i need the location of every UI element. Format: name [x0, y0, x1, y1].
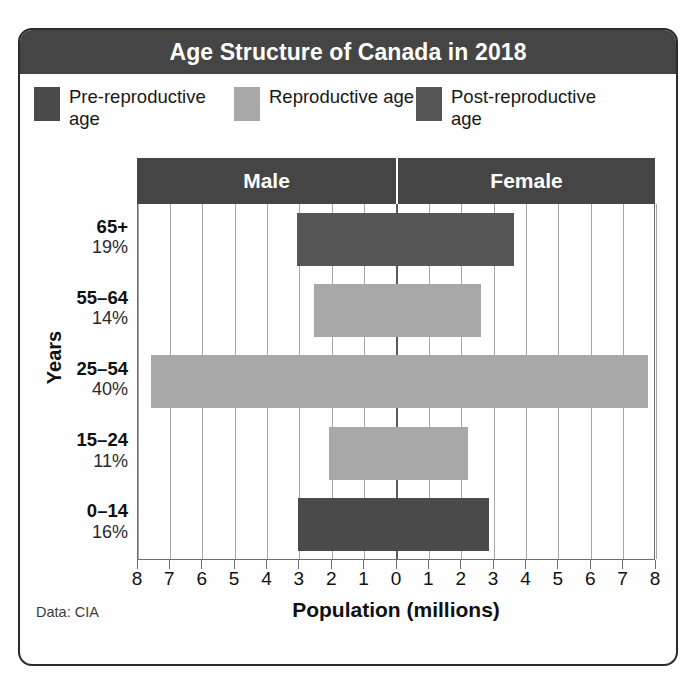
- x-tick-label: 1: [417, 568, 439, 590]
- title-bar: Age Structure of Canada in 2018: [20, 30, 676, 74]
- y-label-percent: 16%: [20, 522, 128, 543]
- bar-male: [314, 284, 397, 337]
- y-label-percent: 14%: [20, 308, 128, 329]
- bar-female: [397, 284, 481, 337]
- bar-female: [397, 427, 468, 480]
- y-axis-title: Years: [43, 298, 66, 418]
- legend-label-post: Post-reproductive age: [451, 86, 611, 130]
- x-tick-label: 4: [515, 568, 537, 590]
- bar-female: [397, 498, 489, 551]
- x-tick-label: 1: [353, 568, 375, 590]
- bar-female: [397, 355, 648, 408]
- chart-area: 65+19%55–6414%25–5440%15–2411%0–1416% Ye…: [20, 146, 676, 666]
- y-label-percent: 11%: [20, 451, 128, 472]
- legend-item-repro: Reproductive age: [234, 86, 416, 121]
- x-tick-label: 5: [547, 568, 569, 590]
- y-label-percent: 40%: [20, 379, 128, 400]
- x-tick-label: 8: [644, 568, 666, 590]
- y-label-age: 25–54: [20, 358, 128, 379]
- x-tick-label: 8: [126, 568, 148, 590]
- bar-male: [297, 213, 397, 266]
- legend-swatch-pre: [34, 87, 60, 121]
- chart-legend: Pre-reproductive ageReproductive agePost…: [20, 74, 676, 146]
- bar-male: [329, 427, 397, 480]
- page-title: Age Structure of Canada in 2018: [169, 39, 526, 66]
- x-tick-label: 7: [612, 568, 634, 590]
- x-tick-label: 4: [256, 568, 278, 590]
- gridline-8: [656, 204, 657, 559]
- x-tick-label: 6: [579, 568, 601, 590]
- male-header: Male: [137, 158, 396, 204]
- x-tick-label: 2: [320, 568, 342, 590]
- bar-row: [138, 418, 654, 489]
- y-label-percent: 19%: [20, 237, 128, 258]
- bar-male: [298, 498, 397, 551]
- female-header: Female: [396, 158, 655, 204]
- source-note: Data: CIA: [36, 604, 99, 620]
- x-axis-tick-labels: 87654321012345678: [137, 568, 655, 594]
- x-tick-label: 0: [385, 568, 407, 590]
- x-axis-title: Population (millions): [137, 598, 655, 622]
- bar-row: [138, 204, 654, 275]
- legend-item-pre: Pre-reproductive age: [34, 86, 234, 130]
- plot-wrapper: Male Female: [137, 158, 655, 560]
- bar-row: [138, 275, 654, 346]
- bar-row: [138, 489, 654, 560]
- y-label-age: 15–24: [20, 429, 128, 450]
- y-axis-label: 15–2411%: [20, 429, 128, 471]
- legend-item-post: Post-reproductive age: [416, 86, 626, 130]
- y-label-age: 55–64: [20, 287, 128, 308]
- bar-row: [138, 346, 654, 417]
- y-label-age: 65+: [20, 216, 128, 237]
- y-axis-label: 65+19%: [20, 216, 128, 258]
- x-tick-label: 6: [191, 568, 213, 590]
- x-tick-label: 3: [482, 568, 504, 590]
- sex-header-band: Male Female: [137, 158, 655, 204]
- bar-male: [151, 355, 397, 408]
- legend-label-pre: Pre-reproductive age: [69, 86, 229, 130]
- x-tick-label: 2: [450, 568, 472, 590]
- bar-female: [397, 213, 514, 266]
- plot-canvas: [137, 204, 655, 560]
- x-tick-label: 3: [288, 568, 310, 590]
- bar-rows: [138, 204, 654, 559]
- y-label-age: 0–14: [20, 500, 128, 521]
- y-axis-label: 0–1416%: [20, 500, 128, 542]
- legend-swatch-repro: [234, 87, 260, 121]
- legend-label-repro: Reproductive age: [269, 86, 414, 108]
- y-axis-label: 25–5440%: [20, 358, 128, 400]
- x-tick-label: 5: [223, 568, 245, 590]
- y-axis-labels: 65+19%55–6414%25–5440%15–2411%0–1416%: [20, 204, 137, 560]
- chart-card: Age Structure of Canada in 2018 Pre-repr…: [18, 28, 678, 666]
- x-tick-label: 7: [158, 568, 180, 590]
- y-axis-label: 55–6414%: [20, 287, 128, 329]
- legend-swatch-post: [416, 87, 442, 121]
